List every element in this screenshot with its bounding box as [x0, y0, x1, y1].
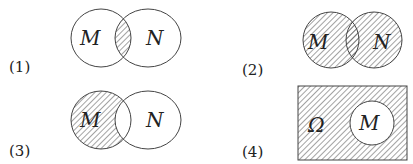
diagram-label: (3) — [9, 142, 30, 160]
set-n-label: N — [145, 108, 165, 132]
universe-label: Ω — [307, 113, 325, 137]
diagram-3: M N (3) — [9, 91, 181, 160]
set-m-label: M — [358, 111, 380, 135]
set-n-label: N — [372, 30, 392, 54]
set-n-label: N — [145, 26, 165, 50]
diagram-label: (4) — [242, 143, 263, 161]
diagram-label: (1) — [9, 58, 30, 76]
diagram-2: M N (2) — [242, 12, 402, 79]
diagram-4: Ω M (4) — [242, 86, 407, 161]
set-m-label: M — [79, 26, 101, 50]
diagram-label: (2) — [242, 61, 263, 79]
set-m-label: M — [307, 30, 329, 54]
diagram-1: M N (1) — [9, 9, 181, 76]
set-m-label: M — [79, 108, 101, 132]
venn-diagrams: M N (1) M N (2) M N (3) Ω M (4) — [0, 0, 413, 164]
